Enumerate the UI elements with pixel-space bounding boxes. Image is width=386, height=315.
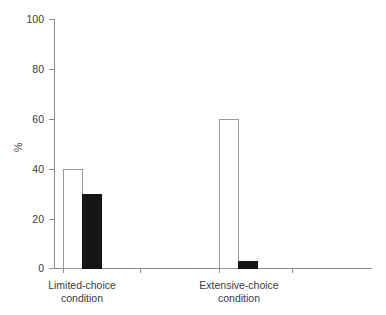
y-axis-line [54, 19, 55, 269]
y-tick-label-40: 40 [4, 164, 44, 175]
y-tick-label-60: 60 [4, 114, 44, 125]
x-tick-left-2 [140, 268, 141, 273]
bar-extensive-open [219, 119, 239, 269]
group-label-limited: Limited-choice condition [22, 279, 142, 305]
x-tick-right-2 [292, 268, 293, 273]
y-tick-60 [49, 119, 54, 120]
group-label-extensive-line2: condition [178, 292, 300, 305]
y-tick-80 [49, 69, 54, 70]
bar-limited-filled [82, 194, 102, 269]
bar-chart-figure: 100 80 60 40 20 0 % Limited-choice condi… [0, 0, 386, 315]
bar-extensive-filled [238, 261, 258, 269]
y-tick-label-80: 80 [4, 64, 44, 75]
y-tick-label-100: 100 [4, 14, 44, 25]
group-label-extensive-line1: Extensive-choice [178, 279, 300, 292]
y-tick-40 [49, 169, 54, 170]
y-tick-20 [49, 219, 54, 220]
y-tick-label-0: 0 [4, 263, 44, 274]
bar-limited-open [63, 169, 83, 269]
y-tick-100 [49, 19, 54, 20]
y-axis-title: % [13, 143, 24, 152]
group-label-limited-line1: Limited-choice [22, 279, 142, 292]
group-label-extensive: Extensive-choice condition [178, 279, 300, 305]
y-tick-0 [49, 268, 54, 269]
group-label-limited-line2: condition [22, 292, 142, 305]
y-tick-label-20: 20 [4, 214, 44, 225]
